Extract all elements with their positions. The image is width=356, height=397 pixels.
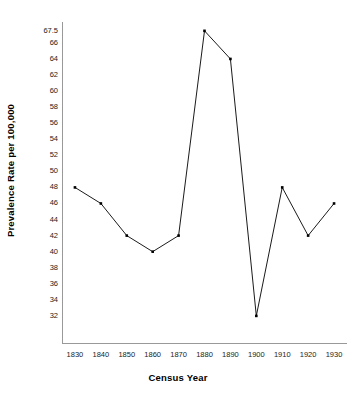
y-axis-tick-label: 56 <box>50 119 58 127</box>
data-point <box>177 234 180 237</box>
x-axis-title: Census Year <box>0 372 356 383</box>
y-axis-title: Prevalence Rate per 100,000 <box>0 0 22 340</box>
y-axis-tick-label: 40 <box>50 248 58 256</box>
x-axis-tick-label: 1930 <box>326 351 343 359</box>
x-axis-tick-label: 1850 <box>118 351 135 359</box>
y-axis-title-label: Prevalence Rate per 100,000 <box>6 103 17 236</box>
data-point <box>125 234 128 237</box>
y-axis-tick-label: 66 <box>50 39 58 47</box>
data-point <box>333 202 336 205</box>
x-axis-tick-labels: 1830184018501860187018801890190019101920… <box>62 351 347 365</box>
y-axis-tick-label: 64 <box>50 55 58 63</box>
y-axis-tick-label: 32 <box>50 312 58 320</box>
y-axis-tick-label: 46 <box>50 200 58 208</box>
data-point <box>74 186 77 189</box>
y-axis-tick-label: 52 <box>50 152 58 160</box>
x-axis-tick-label: 1880 <box>196 351 213 359</box>
series-line <box>75 31 334 316</box>
x-axis-tick-label: 1860 <box>144 351 161 359</box>
y-axis-tick-label: 54 <box>50 135 58 143</box>
series-markers <box>74 30 336 318</box>
x-axis-tick-label: 1830 <box>67 351 84 359</box>
y-axis-tick-label: 62 <box>50 71 58 79</box>
y-axis-tick-label: 34 <box>50 296 58 304</box>
data-point <box>229 58 232 61</box>
y-axis-tick-label: 36 <box>50 280 58 288</box>
x-axis-title-label: Census Year <box>148 372 207 383</box>
plot-area <box>62 22 347 344</box>
y-axis-tick-label: 58 <box>50 103 58 111</box>
y-axis-tick-label: 48 <box>50 184 58 192</box>
data-point <box>151 250 154 253</box>
y-axis-tick-label: 60 <box>50 87 58 95</box>
data-point <box>100 202 103 205</box>
y-axis-tick-label: 50 <box>50 168 58 176</box>
y-axis-tick-labels: 32343638404244464850525456586062646667.5 <box>20 22 58 344</box>
data-point <box>203 30 206 33</box>
line-chart: Prevalence Rate per 100,000 323436384042… <box>0 0 356 397</box>
y-axis-tick-label: 42 <box>50 232 58 240</box>
data-point <box>255 315 258 318</box>
y-axis-tick-label: 38 <box>50 264 58 272</box>
y-axis-tick-label: 44 <box>50 216 58 224</box>
x-axis-tick-label: 1870 <box>170 351 187 359</box>
x-axis-tick-label: 1900 <box>248 351 265 359</box>
x-axis-tick-label: 1920 <box>300 351 317 359</box>
data-point <box>281 186 284 189</box>
x-axis-tick-label: 1910 <box>274 351 291 359</box>
y-axis-tick-label: 67.5 <box>43 27 58 35</box>
x-axis-tick-label: 1890 <box>222 351 239 359</box>
data-series-layer <box>62 22 347 344</box>
data-point <box>307 234 310 237</box>
x-axis-tick-label: 1840 <box>93 351 110 359</box>
